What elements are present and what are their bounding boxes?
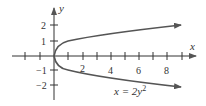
equation-label: x = 2y2 [113,84,146,97]
x-tick-label: 6 [136,65,141,76]
y-tick-label: −1 [36,65,47,76]
x-axis [12,52,196,60]
x-axis-label: x [189,40,195,52]
parabola-chart: y x 2 1 −1 −2 2 4 6 8 x = 2y2 [0,0,206,106]
y-tick-label: 2 [41,20,46,31]
x-tick-label: 4 [108,65,113,76]
y-tick-label: −2 [36,80,47,91]
x-tick-label: 8 [164,65,169,76]
x-tick-label: 2 [80,63,85,74]
y-axis-label: y [58,2,64,14]
y-tick-label: 1 [41,36,46,47]
